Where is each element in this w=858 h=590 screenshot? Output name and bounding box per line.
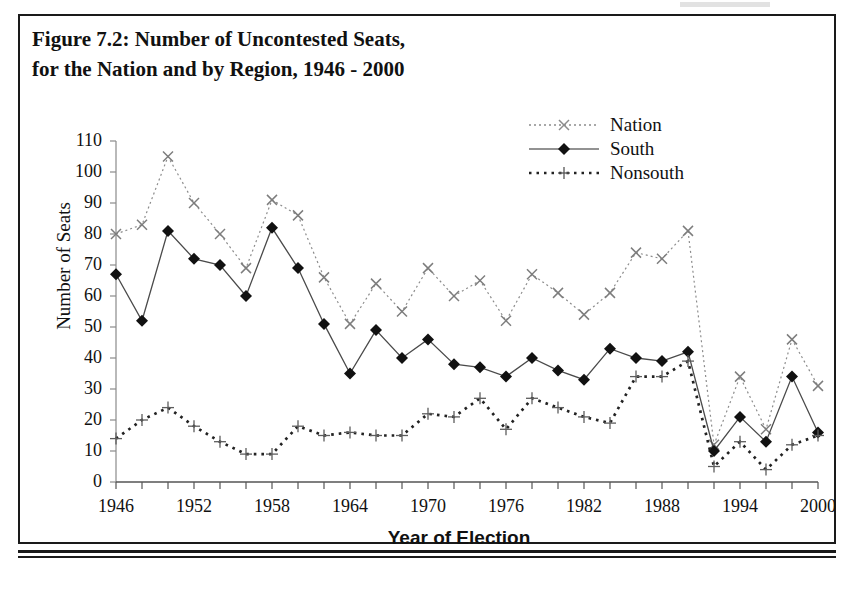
x-axis-tick-label: 2000 [788,496,848,517]
y-axis-tick-label: 0 [60,471,102,492]
y-axis-tick-label: 20 [60,409,102,430]
x-axis-title: Year of Election [229,527,689,549]
y-axis-tick-label: 80 [60,223,102,244]
x-axis-tick-label: 1988 [632,496,692,517]
plus-marker-icon [527,164,601,182]
legend-item-nation: Nation [527,113,757,137]
legend-item-south: South [527,137,757,161]
x-axis-tick-label: 1982 [554,496,614,517]
y-axis-tick-label: 10 [60,440,102,461]
diamond-marker-icon [527,140,601,158]
y-axis-tick-label: 30 [60,378,102,399]
x-axis-tick-label: 1958 [242,496,302,517]
x-axis-tick-label: 1970 [398,496,458,517]
x-axis-tick-label: 1952 [164,496,224,517]
x-axis-tick-label: 1994 [710,496,770,517]
legend-label-nation: Nation [610,114,662,136]
y-axis-tick-label: 90 [60,192,102,213]
y-axis-tick-label: 110 [60,130,102,151]
legend-label-nonsouth: Nonsouth [610,162,684,184]
x-axis-tick-label: 1964 [320,496,380,517]
x-axis-tick-label: 1946 [86,496,146,517]
legend-item-nonsouth: Nonsouth [527,161,757,185]
x-axis-tick-label: 1976 [476,496,536,517]
chart-legend: Nation South Nonsouth [527,113,757,185]
x-marker-icon [527,116,601,134]
y-axis-tick-label: 100 [60,161,102,182]
y-axis-tick-label: 70 [60,254,102,275]
legend-label-south: South [610,138,654,160]
y-axis-tick-label: 40 [60,347,102,368]
y-axis-tick-label: 50 [60,316,102,337]
figure-container: Figure 7.2: Number of Uncontested Seats,… [0,0,858,590]
plot-area: Number of Seats Year of Election 0102030… [0,0,858,590]
y-axis-tick-label: 60 [60,285,102,306]
